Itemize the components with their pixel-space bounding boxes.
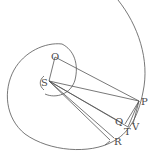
diagram-canvas: O S P Q T V R (0, 0, 158, 165)
label-v: V (131, 121, 140, 132)
label-q: Q (115, 116, 123, 127)
label-r: R (114, 136, 122, 147)
spiral-orbit-figure: O S P Q T V R (0, 0, 158, 165)
label-s: S (41, 77, 48, 88)
label-t: T (124, 126, 131, 137)
label-p: P (141, 96, 148, 107)
line-s-r-2 (49, 81, 114, 138)
line-s-p (49, 81, 139, 101)
line-o-p (55, 57, 139, 101)
label-o: O (51, 51, 59, 62)
